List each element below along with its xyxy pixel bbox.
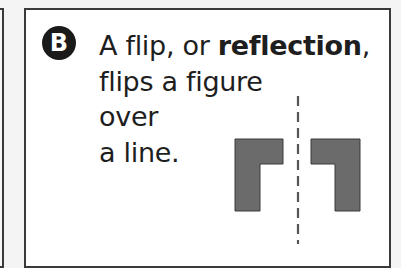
reflected-l-shape <box>311 139 360 211</box>
original-l-shape <box>235 139 283 211</box>
